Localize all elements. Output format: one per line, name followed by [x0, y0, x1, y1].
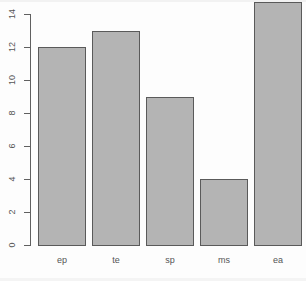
bar-chart: 02468101214 eptespmsea — [0, 0, 306, 281]
y-axis-tick-label-wrap: 0 — [0, 238, 22, 252]
x-axis-label-ms: ms — [200, 255, 248, 266]
bar-te — [92, 31, 140, 247]
y-axis-tick — [24, 179, 30, 180]
y-axis-tick-label: 4 — [7, 169, 17, 189]
y-axis-tick-label-wrap: 2 — [0, 205, 22, 219]
y-axis-tick-label-wrap: 10 — [0, 73, 22, 87]
y-axis-tick-label-wrap: 14 — [0, 7, 22, 21]
y-axis-tick-label-wrap: 12 — [0, 40, 22, 54]
x-axis-label-ep: ep — [38, 255, 86, 266]
y-axis-tick-label: 2 — [7, 202, 17, 222]
y-axis-tick-label-wrap: 8 — [0, 106, 22, 120]
y-axis-tick — [24, 14, 30, 15]
plot-area: 02468101214 eptespmsea — [0, 0, 306, 281]
x-axis-label-sp: sp — [146, 255, 194, 266]
y-axis-line — [30, 14, 31, 246]
y-axis-tick — [24, 47, 30, 48]
y-axis-tick — [24, 212, 30, 213]
y-axis-tick-label: 10 — [7, 70, 17, 90]
bar-sp — [146, 97, 194, 247]
y-axis-tick-label: 14 — [7, 4, 17, 24]
x-axis-label-ea: ea — [254, 255, 302, 266]
y-axis-tick-label: 12 — [7, 37, 17, 57]
y-axis-tick — [24, 113, 30, 114]
y-axis-tick — [24, 80, 30, 81]
bar-ep — [38, 47, 86, 246]
y-axis-tick-label-wrap: 4 — [0, 172, 22, 186]
x-axis-label-te: te — [92, 255, 140, 266]
y-axis-tick-label: 0 — [7, 235, 17, 255]
bar-ms — [200, 179, 248, 246]
y-axis-tick-label: 6 — [7, 136, 17, 156]
y-axis-tick-label-wrap: 6 — [0, 139, 22, 153]
y-axis-tick — [24, 245, 30, 246]
y-axis-tick-label: 8 — [7, 103, 17, 123]
bar-ea — [254, 2, 302, 246]
y-axis-tick — [24, 146, 30, 147]
